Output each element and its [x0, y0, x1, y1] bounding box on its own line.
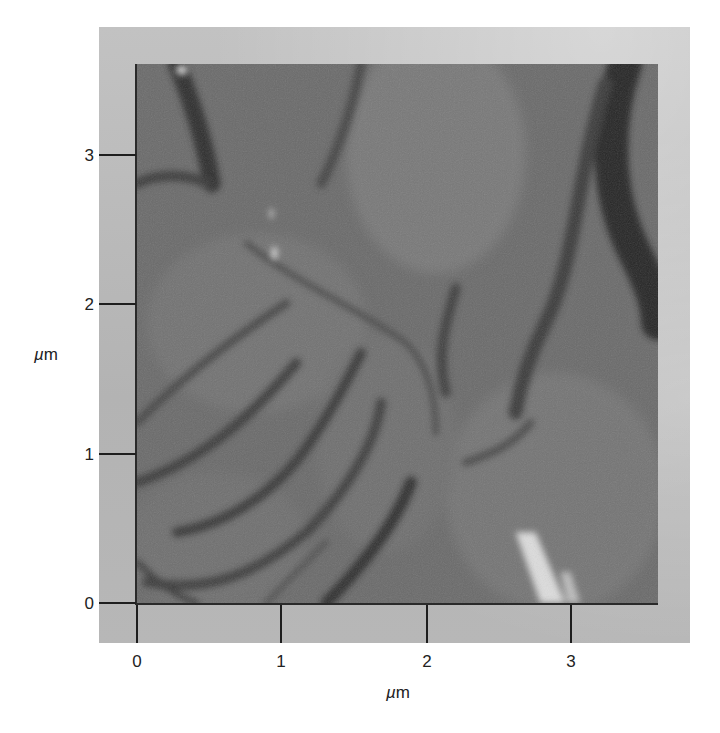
x-tick-label-0: 0 [125, 653, 149, 670]
x-tick-2 [426, 605, 428, 643]
y-axis-title: µm [34, 346, 58, 363]
afm-surface-graphic [137, 64, 658, 603]
y-tick-0 [99, 602, 136, 604]
y-tick-label-1: 1 [70, 446, 94, 463]
x-tick-label-1: 1 [269, 653, 293, 670]
afm-topography-image [135, 64, 658, 605]
x-axis-title-mu: µ [386, 683, 396, 702]
y-tick-label-2: 2 [70, 296, 94, 313]
y-tick-label-3: 3 [70, 147, 94, 164]
x-axis-title: µm [386, 684, 410, 701]
x-tick-3 [570, 605, 572, 643]
x-tick-label-2: 2 [415, 653, 439, 670]
x-tick-0 [136, 605, 138, 643]
y-axis-title-unit: m [44, 345, 58, 364]
y-axis-title-mu: µ [34, 345, 44, 364]
y-tick-label-0: 0 [70, 595, 94, 612]
x-tick-label-3: 3 [559, 653, 583, 670]
y-tick-2 [99, 303, 136, 305]
x-axis-title-unit: m [396, 683, 410, 702]
y-tick-1 [99, 453, 136, 455]
y-tick-3 [99, 154, 136, 156]
x-tick-1 [280, 605, 282, 643]
